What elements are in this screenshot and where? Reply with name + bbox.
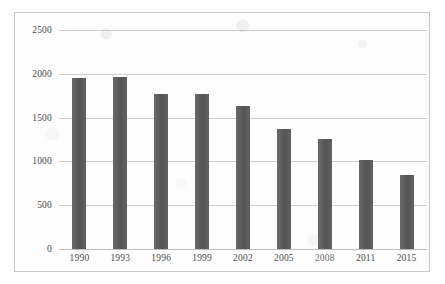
bar-series	[59, 30, 427, 249]
x-axis-tick-label-2008: 2008	[304, 253, 345, 263]
bar-slot-2008	[304, 30, 345, 249]
x-axis-tick-labels: 199019931996199920022005200820112015	[59, 253, 427, 263]
y-axis-tick-label-500: 500	[37, 200, 52, 210]
bar-2002	[236, 106, 250, 249]
x-axis-tick-label-1996: 1996	[141, 253, 182, 263]
x-axis-tick-label-1993: 1993	[100, 253, 141, 263]
y-axis-tick-label-2000: 2000	[32, 69, 52, 79]
x-axis-tick-label-2002: 2002	[223, 253, 264, 263]
bar-slot-1996	[141, 30, 182, 249]
bar-slot-2011	[345, 30, 386, 249]
plot-area: 05001000150020002500	[59, 30, 427, 249]
gridline-0: 0	[59, 249, 427, 250]
bar-1990	[72, 78, 86, 249]
bar-slot-2005	[263, 30, 304, 249]
x-axis-tick-label-1990: 1990	[59, 253, 100, 263]
bar-1999	[195, 94, 209, 249]
y-axis-tick-label-1000: 1000	[32, 156, 52, 166]
x-axis-tick-label-2011: 2011	[345, 253, 386, 263]
bar-slot-1999	[182, 30, 223, 249]
x-axis-tick-label-2005: 2005	[263, 253, 304, 263]
x-axis-tick-label-1999: 1999	[182, 253, 223, 263]
bar-2015	[400, 175, 414, 249]
y-axis-tick-label-1500: 1500	[32, 113, 52, 123]
bar-2011	[359, 160, 373, 249]
bar-slot-2015	[386, 30, 427, 249]
bar-2005	[277, 129, 291, 249]
bar-slot-1990	[59, 30, 100, 249]
chart-frame: 05001000150020002500 1990199319961999200…	[14, 12, 430, 272]
y-axis-tick-label-0: 0	[47, 244, 52, 254]
bar-slot-1993	[100, 30, 141, 249]
bar-2008	[318, 139, 332, 249]
bar-1996	[154, 94, 168, 249]
bar-slot-2002	[223, 30, 264, 249]
x-axis-tick-label-2015: 2015	[386, 253, 427, 263]
bar-1993	[113, 77, 127, 249]
y-axis-tick-label-2500: 2500	[32, 25, 52, 35]
